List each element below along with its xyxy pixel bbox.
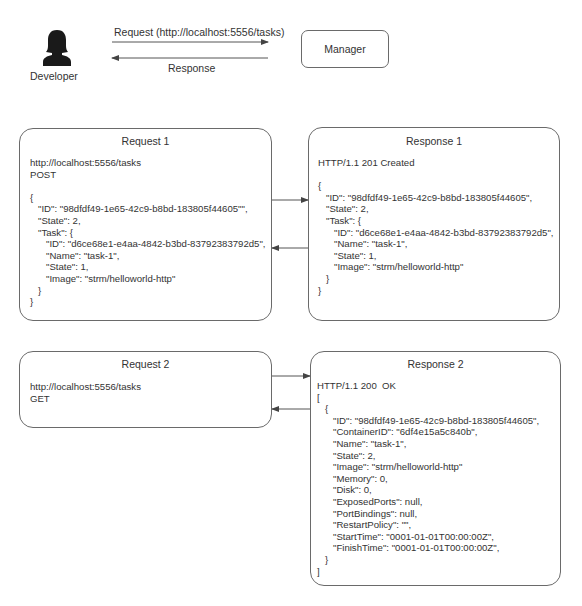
request2-body: http://localhost:5556/tasks GET: [30, 381, 141, 404]
response1-box: Response 1 HTTP/1.1 201 Created { "ID": …: [308, 127, 560, 321]
developer-label: Developer: [30, 70, 78, 82]
request1-box: Request 1 http://localhost:5556/tasks PO…: [19, 128, 272, 321]
response1-body: HTTP/1.1 201 Created { "ID": "98dfdf49-1…: [318, 157, 554, 296]
request1-title: Request 1: [20, 135, 271, 147]
response2-body: HTTP/1.1 200 OK [ { "ID": "98dfdf49-1e65…: [317, 380, 539, 577]
developer-actor-icon: [43, 30, 71, 66]
response-arrow-label: Response: [168, 62, 215, 74]
request-arrow-label: Request (http://localhost:5556/tasks): [114, 26, 284, 38]
manager-node: Manager: [301, 30, 389, 68]
request2-box: Request 2 http://localhost:5556/tasks GE…: [19, 351, 272, 428]
request2-title: Request 2: [20, 358, 271, 370]
response2-title: Response 2: [311, 358, 560, 370]
response2-box: Response 2 HTTP/1.1 200 OK [ { "ID": "98…: [310, 351, 561, 586]
request1-body: http://localhost:5556/tasks POST { "ID":…: [30, 157, 266, 308]
manager-label: Manager: [302, 43, 388, 55]
response1-title: Response 1: [309, 135, 559, 147]
